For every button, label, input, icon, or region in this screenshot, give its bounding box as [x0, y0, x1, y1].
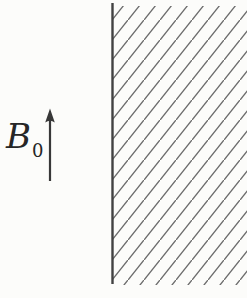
figure-canvas: B0 [0, 0, 247, 298]
field-label-subscript: 0 [32, 142, 43, 160]
field-label-base: B [6, 116, 31, 156]
field-arrow-head [45, 109, 55, 123]
field-label: B0 [6, 119, 43, 153]
field-arrow-icon [45, 109, 55, 182]
hatched-region [113, 6, 247, 285]
